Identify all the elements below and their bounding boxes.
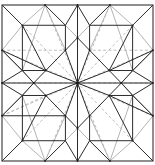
vertex [45,70,47,72]
vertex [1,49,3,51]
vertex [152,82,154,84]
mountain-crease [109,83,121,95]
mountain-crease [78,141,90,161]
light-crease [2,25,22,50]
mountain-crease [22,95,45,140]
mountain-crease [78,38,90,50]
vertex [108,70,110,72]
light-crease [133,116,153,141]
vertex [152,115,154,117]
vertex [33,82,35,84]
mountain-crease [22,25,45,70]
mountain-crease [133,50,153,70]
vertex [89,115,91,117]
center-vertex [76,81,79,84]
vertex [65,49,67,51]
vertex [77,37,79,39]
mountain-crease [121,83,132,95]
vertex [21,140,23,142]
light-crease [78,128,90,140]
mountain-crease [133,83,153,95]
vertex [77,4,79,6]
valley-crease [22,25,77,83]
mountain-crease [45,141,65,161]
light-crease [133,25,153,50]
vertex [77,127,79,129]
vertex [152,49,154,51]
mountain-crease [65,116,77,128]
mountain-crease [78,83,90,116]
mountain-crease [78,116,90,128]
mountain-crease [133,5,153,25]
mountain-crease [2,141,22,161]
mountain-crease [45,5,65,25]
light-crease [65,128,77,140]
mountain-crease [78,5,90,25]
mountain-crease [2,95,22,115]
mountain-crease [121,71,132,83]
mountain-crease [109,25,132,70]
vertex [132,140,134,142]
light-crease [78,25,90,37]
mountain-crease [2,5,22,25]
mountain-crease [65,141,77,161]
vertex [1,115,3,117]
vertex [109,4,111,6]
mountain-crease [65,83,77,116]
vertex [45,95,47,97]
valley-crease [78,83,133,141]
mountain-crease [22,83,33,95]
vertex [65,115,67,117]
vertex [77,160,79,162]
light-crease [65,25,77,37]
vertex [120,82,122,84]
valley-crease [22,83,77,141]
mountain-crease [109,71,121,83]
mountain-crease [90,141,110,161]
mountain-crease [34,71,46,83]
valley-crease [78,25,133,83]
mountain-crease [109,95,132,140]
mountain-crease [133,95,153,115]
mountain-crease [133,71,153,83]
mountain-crease [90,5,110,25]
mountain-crease [133,141,153,161]
mountain-crease [78,50,90,83]
vertex [44,160,46,162]
mountain-crease [65,38,77,50]
vertex [89,49,91,51]
mountain-crease [2,71,22,83]
mountain-crease [2,83,22,95]
mountain-crease [34,83,46,95]
vertex [109,160,111,162]
vertex [108,95,110,97]
crease-pattern-diagram [0,0,155,165]
mountain-crease [65,50,77,83]
light-crease [2,116,22,141]
mountain-crease [22,71,33,83]
vertex [21,24,23,26]
vertex [132,24,134,26]
vertex [44,4,46,6]
vertex [1,82,3,84]
mountain-crease [2,50,22,70]
mountain-crease [65,5,77,25]
